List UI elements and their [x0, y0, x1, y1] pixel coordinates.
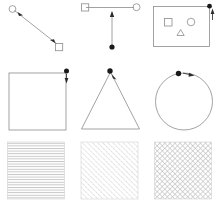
down-arrow-head: [65, 78, 69, 84]
panel-triangle-with-apex-handle[interactable]: [74, 58, 147, 135]
arrow-head: [50, 39, 56, 43]
triangle-outline[interactable]: [82, 72, 140, 129]
panel-line-with-circle-and-square-endpoints[interactable]: [0, 0, 74, 58]
panel-diagonal-hatch-fill[interactable]: [74, 135, 147, 211]
panel-grid: [0, 0, 221, 211]
filled-dot[interactable]: [109, 44, 114, 49]
panel-rectangle-container-with-inner-shapes[interactable]: [147, 0, 221, 58]
up-arrow-head: [211, 9, 215, 15]
circle-outline[interactable]: [156, 73, 213, 130]
diagonal-hatch-region[interactable]: [81, 142, 138, 199]
panel-circle-with-top-handle[interactable]: [147, 58, 221, 135]
up-arrow-head: [110, 11, 114, 17]
circle-node[interactable]: [9, 6, 16, 13]
panel-square-with-corner-handle[interactable]: [0, 58, 74, 135]
panel-square-circle-horizontal-connector[interactable]: [74, 0, 147, 58]
panel-cross-hatch-fill[interactable]: [147, 135, 221, 211]
inner-circle[interactable]: [187, 18, 195, 26]
panel-horizontal-hatch-fill[interactable]: [0, 135, 74, 211]
square-node[interactable]: [56, 44, 63, 51]
circle-node[interactable]: [133, 4, 140, 11]
horizontal-hatch-region[interactable]: [8, 142, 65, 199]
corner-dot[interactable]: [207, 4, 212, 9]
arrow-head: [18, 12, 24, 16]
cross-hatch-region[interactable]: [155, 142, 212, 199]
apex-handle-dot[interactable]: [107, 68, 112, 73]
figure-root: [0, 0, 221, 211]
inner-triangle[interactable]: [177, 30, 184, 36]
inner-square[interactable]: [165, 19, 173, 27]
top-handle-dot[interactable]: [176, 71, 181, 76]
corner-handle-dot[interactable]: [64, 69, 69, 74]
rectangle-frame[interactable]: [154, 7, 210, 47]
square-outline[interactable]: [9, 73, 66, 130]
